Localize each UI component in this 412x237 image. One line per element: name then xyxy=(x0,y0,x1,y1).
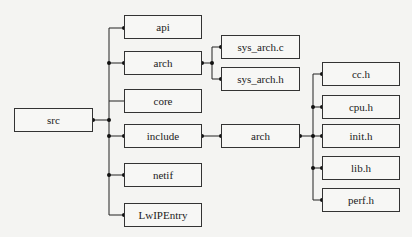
node-netif: netif xyxy=(124,163,202,187)
node-perf-h: perf.h xyxy=(322,188,400,212)
node-core: core xyxy=(124,89,202,113)
node-arch: arch xyxy=(124,51,202,75)
node-include-arch: arch xyxy=(221,124,300,148)
node-cpu-h: cpu.h xyxy=(322,95,400,119)
node-sys-arch-h: sys_arch.h xyxy=(221,67,300,91)
node-init-h: init.h xyxy=(322,124,400,148)
node-api: api xyxy=(124,15,202,39)
node-include: include xyxy=(124,124,202,148)
node-cc-h: cc.h xyxy=(322,62,400,86)
node-lwipentry: LwIPEntry xyxy=(124,203,202,227)
node-sys-arch-c: sys_arch.c xyxy=(221,35,300,59)
node-lib-h: lib.h xyxy=(322,156,400,180)
node-src: src xyxy=(14,108,93,132)
